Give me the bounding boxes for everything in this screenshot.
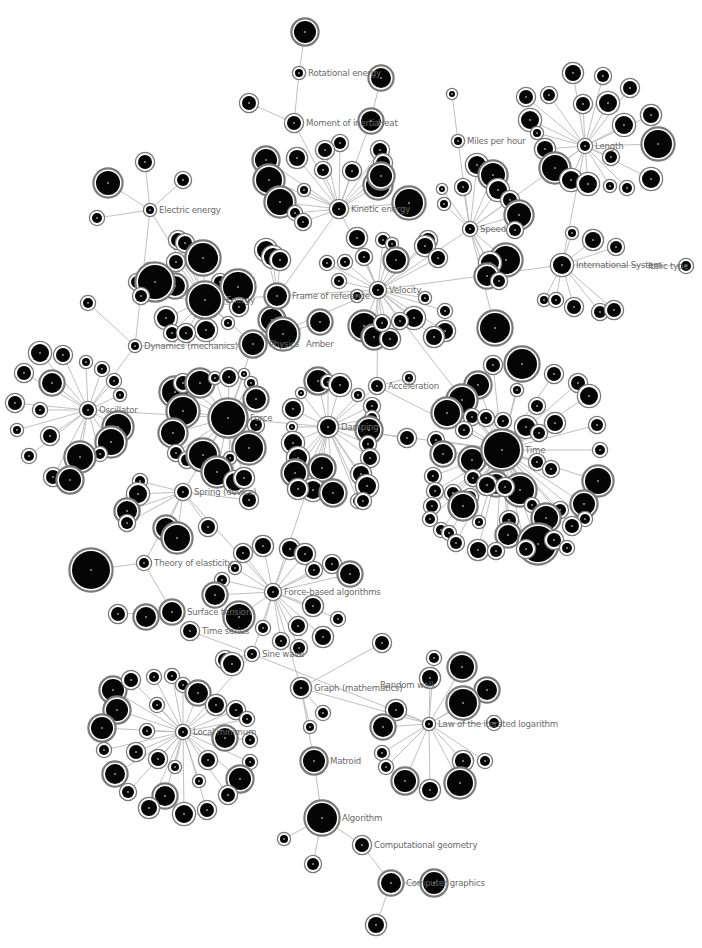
leaf-node[interactable] (596, 91, 619, 114)
leaf-node[interactable] (423, 326, 444, 347)
hub-node-kinetic-energy[interactable] (329, 199, 348, 218)
leaf-node[interactable] (113, 388, 126, 401)
hub-node-length[interactable] (577, 138, 592, 153)
leaf-node[interactable] (437, 197, 450, 210)
leaf-node[interactable] (426, 482, 443, 499)
leaf-node[interactable] (516, 539, 535, 558)
leaf-node[interactable] (454, 178, 471, 195)
leaf-node[interactable] (158, 418, 187, 447)
leaf-node[interactable] (168, 760, 181, 773)
hub-node-miles-per-hour[interactable] (451, 134, 464, 147)
leaf-node[interactable] (477, 310, 512, 345)
leaf-node[interactable] (447, 534, 464, 551)
leaf-node[interactable] (612, 113, 635, 136)
hub-node-velocity[interactable] (369, 281, 386, 298)
leaf-node[interactable] (192, 774, 205, 787)
leaf-node[interactable] (312, 626, 333, 647)
leaf-node[interactable] (337, 254, 352, 269)
leaf-node[interactable] (305, 561, 322, 578)
leaf-node[interactable] (506, 221, 523, 238)
leaf-node[interactable] (467, 539, 488, 560)
hub-node-rotational-energy[interactable] (292, 66, 305, 79)
leaf-node[interactable] (328, 373, 351, 396)
leaf-node[interactable] (370, 714, 395, 739)
hub-node-force[interactable] (208, 398, 247, 437)
leaf-node[interactable] (392, 186, 425, 219)
leaf-node[interactable] (397, 428, 416, 447)
leaf-node[interactable] (319, 479, 346, 506)
leaf-node[interactable] (297, 183, 310, 196)
leaf-node[interactable] (88, 714, 115, 741)
leaf-node[interactable] (198, 517, 217, 536)
hub-node-force-based-algorithms[interactable] (264, 583, 281, 600)
leaf-node[interactable] (419, 779, 440, 800)
leaf-node[interactable] (544, 364, 563, 383)
leaf-node[interactable] (126, 742, 145, 761)
leaf-node[interactable] (277, 832, 290, 845)
hub-node-matroid[interactable] (300, 747, 327, 774)
hub-node-frame-of-reference[interactable] (264, 283, 289, 308)
leaf-node[interactable] (494, 412, 511, 429)
leaf-node[interactable] (149, 697, 164, 712)
leaf-node[interactable] (373, 314, 390, 331)
leaf-node[interactable] (198, 750, 217, 769)
leaf-node[interactable] (53, 345, 72, 364)
leaf-node[interactable] (10, 423, 23, 436)
leaf-node[interactable] (530, 126, 543, 139)
leaf-node[interactable] (619, 180, 634, 195)
leaf-node[interactable] (436, 183, 447, 194)
leaf-node[interactable] (233, 543, 252, 562)
leaf-node[interactable] (93, 168, 122, 197)
hub-node-algorithm[interactable] (304, 800, 339, 835)
leaf-node[interactable] (604, 300, 623, 319)
leaf-node[interactable] (146, 669, 161, 684)
hub-node-moment-of-inertia[interactable] (284, 113, 303, 132)
leaf-node[interactable] (119, 783, 136, 800)
leaf-node[interactable] (202, 582, 227, 607)
leaf-node[interactable] (315, 705, 330, 720)
leaf-node[interactable] (510, 383, 523, 396)
hub-node-local-minimum[interactable] (175, 724, 190, 739)
leaf-node[interactable] (378, 759, 393, 774)
leaf-node[interactable] (294, 213, 311, 230)
leaf-node[interactable] (426, 650, 441, 665)
leaf-node[interactable] (594, 67, 611, 84)
leaf-node[interactable] (287, 478, 308, 499)
leaf-node[interactable] (14, 363, 33, 382)
leaf-node[interactable] (205, 694, 226, 715)
leaf-node[interactable] (337, 561, 362, 586)
leaf-node[interactable] (56, 466, 83, 493)
leaf-node[interactable] (540, 86, 557, 103)
leaf-node[interactable] (346, 227, 367, 248)
leaf-node[interactable] (291, 18, 318, 45)
leaf-node[interactable] (516, 87, 535, 106)
leaf-node[interactable] (132, 287, 149, 304)
leaf-node[interactable] (391, 312, 408, 329)
hub-node-physics[interactable] (239, 330, 266, 357)
leaf-node[interactable] (582, 229, 603, 250)
hub-node-theory-of-elasticity[interactable] (136, 555, 151, 570)
leaf-node[interactable] (80, 295, 95, 310)
leaf-node[interactable] (331, 273, 346, 288)
leaf-node[interactable] (559, 540, 574, 555)
leaf-node[interactable] (302, 595, 323, 616)
leaf-node[interactable] (239, 711, 254, 726)
leaf-node[interactable] (355, 248, 372, 265)
hub-node-damping[interactable] (317, 416, 338, 437)
hub-node-electric-energy[interactable] (143, 203, 156, 216)
leaf-node[interactable] (330, 611, 345, 626)
leaf-node[interactable] (315, 140, 334, 159)
hub-node-sine-wave[interactable] (244, 646, 259, 661)
leaf-node[interactable] (161, 522, 192, 553)
leaf-node[interactable] (603, 179, 616, 192)
leaf-node[interactable] (21, 448, 36, 463)
leaf-node[interactable] (176, 323, 195, 342)
leaf-node[interactable] (374, 745, 389, 760)
hub-node-time[interactable] (481, 429, 522, 470)
leaf-node[interactable] (118, 514, 135, 531)
leaf-node[interactable] (218, 785, 237, 804)
hub-node-oscillator[interactable] (79, 401, 96, 418)
leaf-node[interactable] (40, 426, 59, 445)
leaf-node[interactable] (576, 172, 599, 195)
leaf-node[interactable] (528, 397, 545, 414)
